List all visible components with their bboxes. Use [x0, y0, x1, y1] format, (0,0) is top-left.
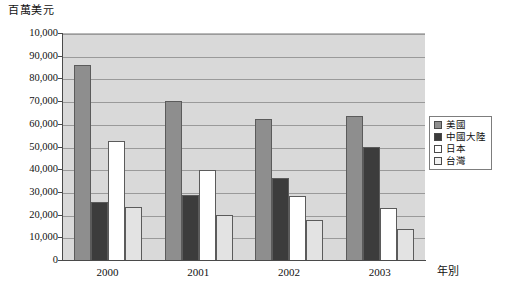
- bar: [255, 119, 272, 260]
- y-axis-tick-label: 70,000: [0, 96, 58, 106]
- y-axis-tick-label: 30,000: [0, 187, 58, 197]
- legend-swatch-icon: [434, 145, 442, 153]
- bar: [91, 202, 108, 260]
- y-axis-line: [62, 33, 63, 261]
- bar-group: [154, 34, 245, 260]
- legend-item: 中國大陸: [434, 132, 486, 142]
- bar-group: [244, 34, 335, 260]
- x-axis-tick-label: 2003: [334, 264, 425, 284]
- bar: [216, 215, 233, 260]
- bar: [306, 220, 323, 260]
- y-axis-tick-label: 20,000: [0, 210, 58, 220]
- legend-item: 美國: [434, 120, 486, 130]
- plot-area: [62, 33, 425, 260]
- bar: [380, 208, 397, 260]
- y-axis-tick-label: 90,000: [0, 51, 58, 61]
- y-axis-tick-label: 50,000: [0, 142, 58, 152]
- bar-group: [63, 34, 154, 260]
- legend-item-label: 日本: [446, 144, 466, 154]
- legend-swatch-icon: [434, 121, 442, 129]
- bar: [108, 141, 125, 260]
- legend: 美國中國大陸日本台灣: [429, 116, 492, 170]
- legend-item-label: 美國: [446, 120, 466, 130]
- bar: [125, 207, 142, 260]
- x-axis-line: [62, 260, 426, 261]
- legend-item: 台灣: [434, 156, 486, 166]
- bar: [272, 178, 289, 260]
- bar: [363, 147, 380, 261]
- y-axis-tick-label: 60,000: [0, 119, 58, 129]
- bar-groups: [63, 34, 425, 260]
- y-axis-tick-label: 80,000: [0, 73, 58, 83]
- bar: [74, 65, 91, 260]
- bar: [199, 170, 216, 260]
- bar: [182, 195, 199, 260]
- legend-item-label: 中國大陸: [446, 132, 486, 142]
- legend-item: 日本: [434, 144, 486, 154]
- bar: [346, 116, 363, 260]
- bar-group: [335, 34, 426, 260]
- y-axis-tick-label: 0: [0, 255, 58, 265]
- x-axis-title: 年別: [437, 264, 459, 280]
- y-axis-tick-label: 10,000: [0, 232, 58, 242]
- x-axis-tick-label: 2002: [244, 264, 335, 284]
- y-axis-tick-label: 10,000: [0, 28, 58, 38]
- y-axis-tick-labels: 10,00090,00080,00070,00060,00050,00040,0…: [0, 33, 58, 261]
- y-axis-tick-label: 40,000: [0, 164, 58, 174]
- legend-swatch-icon: [434, 133, 442, 141]
- bar: [397, 229, 414, 260]
- x-axis-tick-label: 2001: [153, 264, 244, 284]
- y-axis-title: 百萬美元: [8, 4, 54, 17]
- legend-swatch-icon: [434, 157, 442, 165]
- legend-item-label: 台灣: [446, 156, 466, 166]
- x-axis-tick-labels: 2000200120022003: [62, 264, 425, 284]
- bar: [165, 101, 182, 260]
- bar: [289, 196, 306, 260]
- x-axis-tick-label: 2000: [62, 264, 153, 284]
